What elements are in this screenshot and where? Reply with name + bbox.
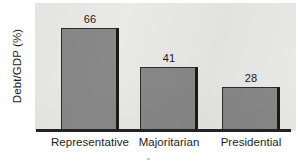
bar-group: 41 [140,3,198,131]
bars-layer: 664128 [35,3,296,131]
bar-group: 28 [222,3,280,131]
x-tick-label-presidential: Presidential [200,136,298,148]
y-axis-title-text: Debt/GDP (%) [12,28,24,102]
scan-artifact-speck [147,158,150,160]
bar-presidential [222,87,280,131]
bar-chart-figure: Debt/GDP (%) 664128 RepresentativeMajori… [0,0,298,163]
x-axis-tick-labels: RepresentativeMajoritarianPresidential [35,136,296,154]
plot-area: 664128 [35,3,296,131]
x-axis-line [36,129,291,132]
bar-majoritarian [140,67,198,131]
bar-value-label: 41 [140,52,198,64]
y-axis-title: Debt/GDP (%) [0,0,35,131]
bar-value-label: 28 [222,72,280,84]
bar-group: 66 [61,3,119,131]
bar-representative [61,28,119,131]
bar-value-label: 66 [61,13,119,25]
